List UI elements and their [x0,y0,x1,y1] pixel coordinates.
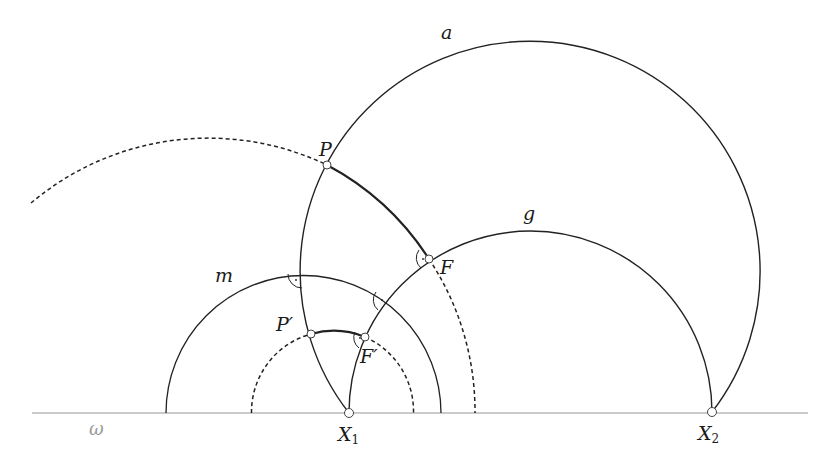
label-X1-main: X [338,423,352,445]
point-F[interactable] [425,255,433,263]
label-X1: X1 [338,425,359,446]
label-F: F [440,258,453,277]
diagram-svg [0,0,838,468]
label-m: m [215,266,233,285]
point-F-prime[interactable] [361,333,369,341]
curve-big-dashed-left [31,138,327,203]
label-P: P [319,140,332,159]
label-X2-sub: 2 [712,432,720,446]
curve-pprime-fprime-segment [311,331,365,337]
diagram-canvas: a g m P F P′ F′ X1 X2 ω [0,0,838,468]
label-F-prime: F′ [360,347,378,366]
label-P-prime: P′ [276,315,293,334]
label-X1-sub: 1 [352,433,360,447]
point-X1[interactable] [345,409,354,418]
curve-g [349,231,712,413]
point-P[interactable] [323,161,331,169]
label-omega: ω [89,420,104,438]
label-X2: X2 [698,424,719,445]
curve-big-dashed-right [429,259,475,413]
curve-m [166,276,441,414]
curve-inner-dashed-left [251,334,311,413]
point-P-prime[interactable] [307,330,315,338]
right-angle-mark-F [416,250,424,268]
point-X2[interactable] [708,408,717,417]
label-g: g [523,204,535,223]
label-a: a [441,23,452,42]
curve-pf-segment [327,165,429,259]
label-X2-main: X [698,422,712,444]
right-angle-mark-g-m [373,292,383,310]
